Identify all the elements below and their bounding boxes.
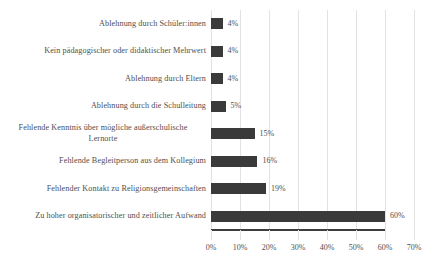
- tick-30%: [298, 230, 299, 240]
- category-label: Fehlender Kontakt zu Religionsgemeinscha…: [0, 184, 206, 195]
- tick-60%: [385, 230, 386, 240]
- category-label: Kein pädagogischer oder didaktischer Meh…: [0, 46, 206, 57]
- bar-value-label: 60%: [390, 210, 405, 221]
- tick-20%: [269, 230, 270, 240]
- bar-row: 4%: [211, 38, 414, 66]
- category-label-column: Ablehnung durch Schüler:innenKein pädago…: [0, 10, 206, 230]
- bar-row: 15%: [211, 120, 414, 148]
- category-label-line: Fehlender Kontakt zu Religionsgemeinscha…: [0, 184, 206, 195]
- category-label-line: Ablehnung durch Eltern: [0, 74, 206, 85]
- plot-area: 4%4%4%5%15%16%19%60%: [211, 10, 414, 230]
- category-label-line: Lernorte: [0, 134, 206, 145]
- category-label-line: Ablehnung durch Schüler:innen: [0, 19, 206, 30]
- bar-row: 4%: [211, 65, 414, 93]
- bar-row: 5%: [211, 93, 414, 121]
- gridline-70%: [414, 10, 415, 230]
- category-label: Zu hoher organisatorischer und zeitliche…: [0, 211, 206, 222]
- bar: [211, 128, 255, 139]
- category-label-line: Zu hoher organisatorischer und zeitliche…: [0, 211, 206, 222]
- category-label-line: Fehlende Kenntnis über mögliche außersch…: [0, 123, 206, 134]
- tick-0%: [211, 230, 212, 240]
- bar-value-label: 4%: [228, 18, 239, 29]
- tick-70%: [414, 230, 415, 240]
- bar: [211, 73, 223, 84]
- category-label-line: Kein pädagogischer oder didaktischer Meh…: [0, 46, 206, 57]
- bar-row: 4%: [211, 10, 414, 38]
- category-label-line: Ablehnung durch die Schulleitung: [0, 101, 206, 112]
- bar: [211, 156, 257, 167]
- x-axis-tick-marks: [211, 230, 414, 240]
- bar-chart: Ablehnung durch Schüler:innenKein pädago…: [0, 0, 425, 269]
- category-label: Ablehnung durch Schüler:innen: [0, 19, 206, 30]
- bar-value-label: 15%: [260, 128, 275, 139]
- bar: [211, 183, 266, 194]
- bar-value-label: 4%: [228, 45, 239, 56]
- bar-value-label: 19%: [271, 183, 286, 194]
- bar-value-label: 5%: [231, 100, 242, 111]
- bar-row: 60%: [211, 203, 414, 231]
- bar: [211, 211, 385, 222]
- x-axis-label: 70%: [394, 243, 425, 252]
- category-label: Fehlende Begleitperson aus dem Kollegium: [0, 156, 206, 167]
- tick-10%: [240, 230, 241, 240]
- bar: [211, 18, 223, 29]
- tick-40%: [327, 230, 328, 240]
- bar: [211, 101, 226, 112]
- bar: [211, 46, 223, 57]
- x-axis-tick-labels: 0%10%20%30%40%50%60%70%: [211, 243, 414, 257]
- bar-value-label: 16%: [262, 155, 277, 166]
- category-label: Ablehnung durch die Schulleitung: [0, 101, 206, 112]
- category-label: Ablehnung durch Eltern: [0, 74, 206, 85]
- category-label-line: Fehlende Begleitperson aus dem Kollegium: [0, 156, 206, 167]
- category-label: Fehlende Kenntnis über mögliche außersch…: [0, 123, 206, 144]
- bar-value-label: 4%: [228, 73, 239, 84]
- tick-50%: [356, 230, 357, 240]
- bar-row: 19%: [211, 175, 414, 203]
- bar-row: 16%: [211, 148, 414, 176]
